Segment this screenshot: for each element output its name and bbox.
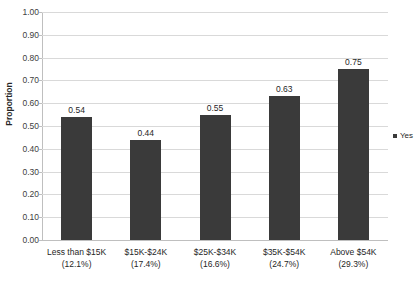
y-tick-label: 0.00 [3,236,39,245]
gridline [42,35,388,36]
bar-value-label: 0.63 [264,85,304,94]
x-axis-label-category: $25K-$34K [194,247,237,257]
x-axis-label-category: $35K-$54K [263,247,306,257]
bar-value-label: 0.75 [333,58,373,67]
legend-swatch-yes [393,134,397,138]
bar-value-label: 0.55 [195,104,235,113]
bar[interactable] [61,117,92,240]
chart-legend: Yes [393,132,413,140]
bar-value-label: 0.54 [57,106,97,115]
x-axis-label-percent: (29.3%) [308,258,398,270]
x-axis-label-category: Less than $15K [47,247,106,257]
bar[interactable] [338,69,369,240]
x-axis-label: Above $54K(29.3%) [308,246,398,270]
x-axis-label-category: Above $54K [330,247,376,257]
bar-value-label: 0.44 [126,129,166,138]
gridline [42,12,388,13]
gridline [42,240,388,241]
bar[interactable] [130,140,161,240]
y-tick-label: 0.40 [3,145,39,154]
gridline [42,80,388,81]
y-tick-label: 0.30 [3,167,39,176]
bar-chart: 1.000.900.800.700.600.500.400.300.200.10… [0,0,416,281]
bar[interactable] [269,96,300,240]
y-tick-label: 0.90 [3,31,39,40]
legend-label-yes: Yes [400,132,413,140]
bar[interactable] [200,115,231,240]
y-tick-label: 0.20 [3,190,39,199]
x-axis-label-category: $15K-$24K [125,247,168,257]
y-tick-label: 1.00 [3,8,39,17]
plot-area: 0.540.440.550.630.75 [42,12,388,240]
y-tick-label: 0.80 [3,53,39,62]
y-tick-label: 0.10 [3,213,39,222]
y-axis-title: Proportion [4,64,14,144]
